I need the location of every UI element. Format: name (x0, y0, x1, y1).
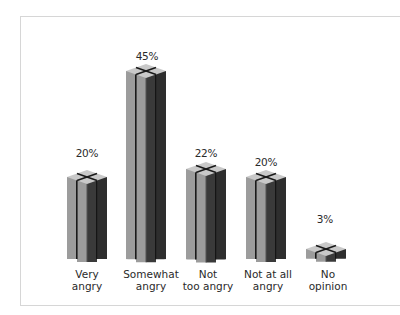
category-label-no-opinion: No opinion (288, 268, 368, 292)
category-label-line: opinion (288, 280, 368, 292)
value-label-very-angry: 20% (62, 147, 112, 159)
value-label-not-too-angry: 22% (181, 147, 231, 159)
bar-very-angry (67, 170, 107, 262)
bar-not-too-angry (186, 162, 226, 263)
category-label-line: No (288, 268, 368, 280)
value-label-somewhat-angry: 45% (122, 50, 172, 62)
bar-not-at-all-angry (246, 170, 286, 262)
bar-somewhat-angry (126, 64, 166, 262)
value-label-not-at-all-angry: 20% (241, 156, 291, 168)
bar-no-opinion (306, 242, 346, 262)
value-label-no-opinion: 3% (300, 213, 350, 225)
